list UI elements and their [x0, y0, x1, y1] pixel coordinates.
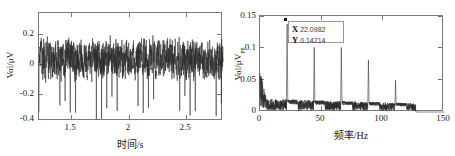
axes-time-domain — [38, 12, 222, 120]
x-tick-time-0: 1.5 — [56, 122, 84, 132]
x-axis-label-freq-text: 频率/Hz — [334, 130, 368, 141]
x-tick-time-2: 2.5 — [171, 122, 199, 132]
x-axis-label-time: 时间/s — [80, 136, 180, 151]
y-tick-time-0: 0.2 — [10, 28, 34, 38]
x-tick-freq-0: 0 — [245, 113, 273, 123]
x-tick-freq-2: 100 — [367, 113, 395, 123]
x-tick-freq-3: 150 — [429, 113, 455, 123]
y-tick-time-1: 0 — [10, 58, 34, 68]
x-axis-label-freq: 频率/Hz — [301, 127, 401, 142]
datatip-box[interactable]: X22.0982 Y0.14214 — [288, 21, 344, 43]
datatip-x-value: 22.0982 — [300, 26, 325, 33]
y-tick-time-2-text: -0.2 — [20, 88, 34, 98]
x-tick-time-1-text: 2 — [126, 122, 131, 132]
y-tick-freq-0: 0.15 — [224, 10, 256, 20]
y-tick-freq-2: 0.05 — [224, 74, 256, 84]
y-tick-time-2: -0.2 — [6, 88, 34, 98]
y-tick-time-1-text: 0 — [30, 58, 35, 68]
x-tick-freq-1: 50 — [306, 113, 334, 123]
x-tick-time-2-text: 2.5 — [179, 122, 190, 132]
y-tick-time-0-text: 0.2 — [23, 28, 34, 38]
x-tick-freq-1-text: 50 — [316, 113, 325, 123]
datatip-y-value: 0.14214 — [300, 37, 325, 44]
datatip-row-x: X22.0982 — [292, 24, 339, 35]
y-tick-time-3-text: -0.4 — [20, 113, 34, 123]
panel-frequency-domain: Vol/μVpp 0.15 0.1 0.05 0 X22.0982 — [228, 0, 455, 156]
x-tick-freq-2-text: 100 — [374, 113, 388, 123]
x-axis-label-time-text: 时间/s — [117, 139, 144, 150]
signal-trace-time — [39, 13, 223, 121]
x-tick-freq-3-text: 150 — [436, 113, 450, 123]
x-tick-time-1: 2 — [114, 122, 142, 132]
y-tick-freq-2-text: 0.05 — [240, 74, 256, 84]
y-tick-freq-0-text: 0.15 — [240, 10, 256, 20]
datatip-row-y: Y0.14214 — [292, 35, 339, 46]
datatip-y-key: Y — [292, 35, 298, 45]
y-tick-freq-1-text: 0.1 — [245, 42, 256, 52]
axes-frequency-domain — [259, 15, 443, 111]
x-tick-freq-0-text: 0 — [257, 113, 262, 123]
datatip-marker — [284, 18, 287, 21]
datatip-x-key: X — [292, 24, 298, 34]
panel-time-domain: Vol/μV 0.2 0 -0.2 -0.4 1. — [0, 0, 228, 156]
figure: Vol/μV 0.2 0 -0.2 -0.4 1. — [0, 0, 455, 156]
x-tick-time-0-text: 1.5 — [64, 122, 75, 132]
y-tick-time-3: -0.4 — [6, 113, 34, 123]
y-tick-freq-1: 0.1 — [224, 42, 256, 52]
